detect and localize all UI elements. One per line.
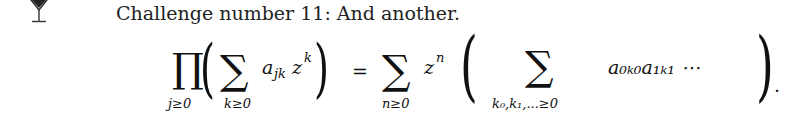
period: .: [774, 74, 780, 96]
equation: ∏ j≥0 ( ∑ k≥0 a jk z k ) = ∑ n≥0 z n ( ∑…: [0, 0, 806, 128]
term1-a: a: [262, 56, 273, 78]
term3: a₀ₖ₀a₁ₖ₁ ⋯: [608, 56, 700, 78]
equals-sign: =: [352, 60, 368, 82]
right-paren-1: ): [314, 36, 329, 100]
left-paren-2: (: [460, 34, 478, 98]
term2-z: z: [424, 56, 434, 78]
right-paren-2: ): [756, 34, 774, 98]
sum3-symbol: ∑: [525, 46, 554, 86]
product-index: j≥0: [168, 96, 191, 111]
sum2-symbol: ∑: [382, 50, 411, 90]
term1-superscript: k: [304, 50, 312, 65]
sum1-index: k≥0: [224, 96, 251, 111]
sum2-index: n≥0: [382, 96, 410, 111]
term1-z: z: [292, 56, 302, 78]
left-paren-1: (: [200, 36, 215, 100]
sum3-index: k₀,k₁,...≥0: [492, 96, 558, 111]
term1-subscript: jk: [274, 66, 286, 81]
term2-superscript: n: [436, 50, 444, 65]
sum1-symbol: ∑: [220, 50, 249, 90]
